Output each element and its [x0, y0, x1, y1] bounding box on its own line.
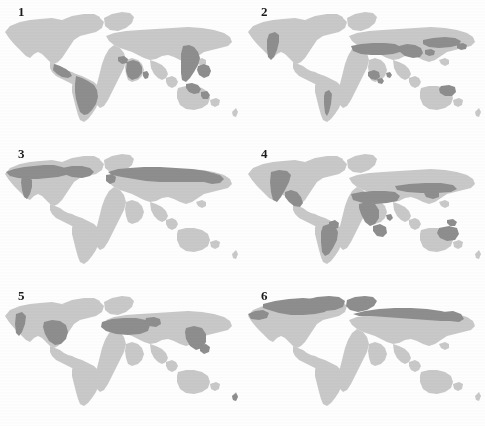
world-map-2 [243, 0, 485, 142]
panel-label-5: 5 [18, 289, 25, 302]
world-map-3 [0, 142, 242, 284]
world-map-5 [0, 284, 242, 426]
panel-label-1: 1 [18, 5, 25, 18]
panel-label-4: 4 [261, 147, 268, 160]
world-map-6 [243, 284, 485, 426]
map-panel-5[interactable]: 5 [0, 284, 242, 426]
map-panel-2[interactable]: 2 [243, 0, 485, 142]
panel-label-3: 3 [18, 147, 25, 160]
landmass-layer-2 [248, 12, 481, 122]
world-map-4 [243, 142, 485, 284]
map-panel-6[interactable]: 6 [243, 284, 485, 426]
panel-label-6: 6 [261, 289, 268, 302]
map-panel-1[interactable]: 1 [0, 0, 242, 142]
panel-label-2: 2 [261, 5, 268, 18]
world-map-1 [0, 0, 242, 142]
map-panel-3[interactable]: 3 [0, 142, 242, 284]
map-panel-4[interactable]: 4 [243, 142, 485, 284]
biome-map-figure: 1 [0, 0, 485, 426]
